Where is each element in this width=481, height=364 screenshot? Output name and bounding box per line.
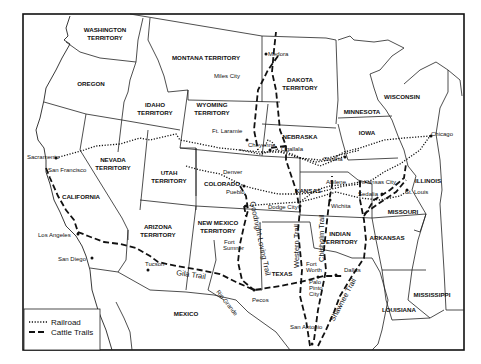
- legend-railroad-label: Railroad: [51, 318, 81, 327]
- city-sedalia: Sedalia: [358, 191, 379, 197]
- region-oregon: OREGON: [77, 80, 105, 87]
- region-arkansas: ARKANSAS: [369, 234, 404, 241]
- region-iowa: IOWA: [359, 129, 376, 136]
- city-pecos: Pecos: [252, 297, 269, 303]
- region-wisconsin: WISCONSIN: [384, 93, 420, 100]
- region-washington: WASHINGTONTERRITORY: [84, 26, 127, 41]
- region-illinois: ILLINOIS: [415, 177, 441, 184]
- region-kansas: KANSAS: [295, 187, 321, 194]
- region-utah: UTAHTERRITORY: [151, 169, 187, 184]
- city-chicago: Chicago: [431, 131, 454, 137]
- legend-cattle-trails-label: Cattle Trails: [51, 328, 93, 337]
- city-sacramento: Sacramento: [27, 154, 60, 160]
- city-dodge-city: Dodge City: [268, 204, 298, 210]
- city-tucson: Tucson: [145, 261, 164, 267]
- region-colorado: COLORADO: [204, 180, 240, 187]
- city-pueblo: Pueblo: [226, 189, 245, 195]
- city-kansas-city: Kansas City: [364, 179, 396, 185]
- city-st-louis: St. Louis: [405, 189, 428, 195]
- region-wyoming: WYOMINGTERRITORY: [194, 101, 230, 116]
- region-minnesota: MINNESOTA: [344, 108, 381, 115]
- region-nevada: NEVADATERRITORY: [95, 156, 131, 171]
- city-abilene: Abilene: [326, 179, 347, 185]
- city-san-antonio: San Antonio: [290, 324, 323, 330]
- city-denver: Denver: [223, 169, 242, 175]
- city-omaha: Omaha: [323, 156, 343, 162]
- cattle-trails-map: WASHINGTONTERRITORY OREGON MONTANA TERRI…: [0, 0, 481, 364]
- city-san-diego: San Diego: [58, 256, 87, 262]
- region-louisiana: LOUISIANA: [382, 306, 417, 313]
- city-dallas: Dallas: [344, 267, 361, 273]
- city-san-francisco: San Francisco: [48, 167, 87, 173]
- city-los-angeles: Los Angeles: [38, 232, 71, 238]
- label-shawnee-trail: Shawnee Trail: [328, 276, 358, 322]
- label-chisholm-trail: Chisholm Trail: [317, 214, 326, 262]
- city-wichita: Wichita: [331, 203, 351, 209]
- map-legend: Railroad Cattle Trails: [24, 309, 100, 350]
- label-western-trail: Western Trail: [292, 224, 301, 268]
- region-new-mexico: NEW MEXICOTERRITORY: [198, 219, 239, 234]
- label-rio-grande: Rio Grande: [215, 289, 239, 317]
- region-missouri: MISSOURI: [388, 208, 419, 215]
- city-ogallala: Ogallala: [281, 146, 304, 152]
- map-frame: [23, 14, 464, 350]
- city-medora: Medora: [268, 51, 289, 57]
- city-miles-city: Miles City: [214, 73, 240, 79]
- region-arizona: ARIZONATERRITORY: [140, 223, 176, 238]
- label-goodnight-loving-trail: Goodnight-Loving Trail: [248, 201, 273, 277]
- region-mississippi: MISSISSIPPI: [414, 291, 451, 298]
- region-idaho: IDAHOTERRITORY: [137, 101, 173, 116]
- region-california: CALIFORNIA: [62, 193, 101, 200]
- city-cheyenne: Cheyenne: [248, 142, 276, 148]
- region-texas: TEXAS: [272, 270, 293, 277]
- region-dakota: DAKOTATERRITORY: [282, 76, 318, 91]
- region-mexico: MEXICO: [174, 310, 199, 317]
- region-montana: MONTANA TERRITORY: [172, 54, 241, 61]
- city-ft-laramie: Ft. Laramie: [212, 128, 243, 134]
- region-indian-territory: INDIANTERRITORY: [322, 230, 358, 245]
- region-nebraska: NEBRASKA: [282, 133, 318, 140]
